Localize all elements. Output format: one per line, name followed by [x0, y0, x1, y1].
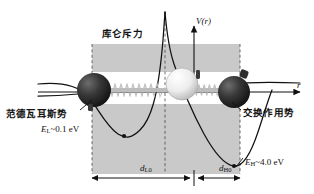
curve-left-tail [38, 94, 78, 96]
shaded-band-lower [92, 104, 240, 174]
distance-low-subscript: L0 [145, 166, 152, 173]
label-energy-low: EL~0.1 eV [41, 124, 79, 134]
atom-stub-center [196, 70, 200, 79]
energy-low-value: ~0.1 eV [50, 124, 79, 134]
figure-canvas: 库仑斥力 范德瓦耳斯势 EL~0.1 eV 交换作用势 EH~4.0 eV V(… [0, 0, 314, 194]
label-exchange-interaction: 交换作用势 [243, 105, 294, 119]
minimum-marker-shallow [122, 134, 126, 138]
label-distance-low: dL0 [140, 163, 152, 173]
minimum-marker-deep [232, 164, 236, 168]
label-y-axis: V(r) [196, 16, 211, 26]
energy-high-value: ~4.0 eV [255, 157, 284, 167]
atom-center-light [166, 68, 198, 100]
bond-rods [96, 88, 234, 92]
label-energy-high: EH~4.0 eV [245, 157, 284, 167]
label-van-der-waals: 范德瓦耳斯势 [6, 106, 67, 120]
atom-left-dark [77, 73, 111, 107]
atom-stub-left [88, 104, 93, 111]
label-x-axis: r [297, 80, 301, 90]
shaded-band-upper [92, 44, 240, 72]
distance-high-subscript: H0 [224, 166, 232, 173]
label-distance-high: dH0 [219, 163, 231, 173]
label-coulomb-repulsion: 库仑斥力 [102, 26, 143, 40]
